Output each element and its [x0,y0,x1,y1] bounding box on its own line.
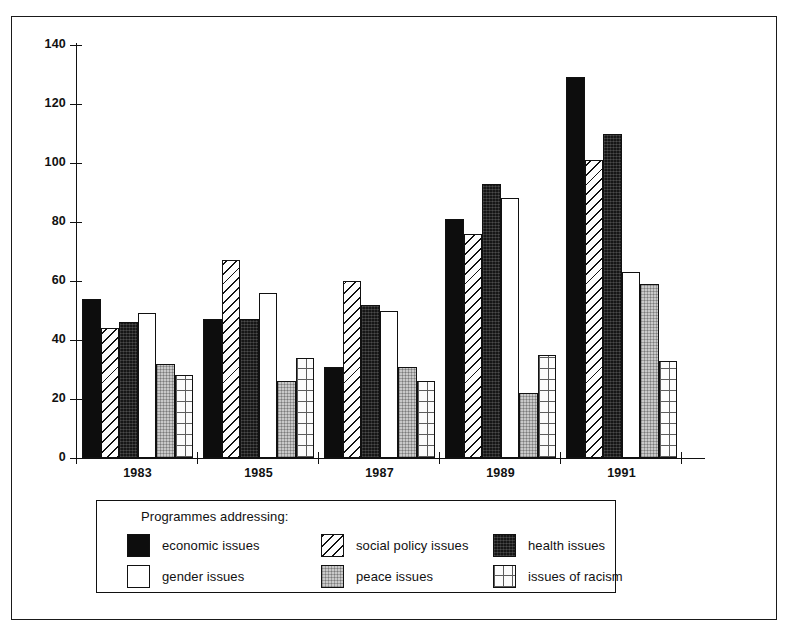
bar [240,319,259,458]
bar [640,284,659,458]
y-axis-tick [70,104,82,105]
x-axis-tick [681,452,682,464]
y-axis-tick [70,281,82,282]
bar [519,393,538,458]
legend-swatch-icon [493,565,516,588]
x-axis-tick [439,452,440,464]
y-axis-tick [70,222,82,223]
bar [259,293,278,458]
x-axis-group-label: 1991 [582,466,662,480]
bar [119,322,138,458]
legend-label: peace issues [356,569,433,584]
legend-item[interactable]: health issues [493,534,605,557]
x-axis-tick [318,452,319,464]
legend-label: economic issues [162,538,260,553]
x-axis-group-label: 1987 [340,466,420,480]
x-axis-tick [76,452,77,464]
legend-swatch-icon [493,534,516,557]
legend-label: gender issues [162,569,244,584]
bar [603,134,622,459]
bar [566,77,585,458]
bar [482,184,501,458]
y-axis-tick-label: 140 [24,37,66,51]
bar [175,375,194,458]
bar [324,367,343,458]
legend-item[interactable]: social policy issues [321,534,469,557]
bar [138,313,157,458]
legend-label: health issues [528,538,605,553]
legend-label: issues of racism [528,569,623,584]
y-axis-tick-label: 40 [24,332,66,346]
legend-swatch-icon [127,565,150,588]
y-axis-tick [70,399,82,400]
x-axis-group-label: 1989 [461,466,541,480]
bar [222,260,241,458]
bar [501,198,520,458]
bar [659,361,678,458]
bar [464,234,483,458]
bar [622,272,641,458]
y-axis-tick [70,45,82,46]
bar [445,219,464,458]
bar-chart: 020406080100120140 19831985198719891991 … [0,0,800,636]
legend-swatch-icon [321,565,344,588]
y-axis-tick-label: 20 [24,391,66,405]
legend-swatch-icon [321,534,344,557]
bar [203,319,222,458]
y-axis-tick-label: 60 [24,273,66,287]
y-axis-tick-label: 80 [24,214,66,228]
x-axis-tick [197,452,198,464]
bar [417,381,436,458]
chart-legend: Programmes addressing: economic issuesso… [96,500,616,593]
bar [538,355,557,458]
bar [82,299,101,458]
legend-label: social policy issues [356,538,469,553]
legend-item[interactable]: issues of racism [493,565,623,588]
legend-swatch-icon [127,534,150,557]
bar [101,328,120,458]
x-axis-group-label: 1983 [98,466,178,480]
x-axis-line [76,458,705,459]
bar [343,281,362,458]
legend-title: Programmes addressing: [141,509,288,524]
bar [398,367,417,458]
legend-item[interactable]: peace issues [321,565,433,588]
legend-item[interactable]: gender issues [127,565,244,588]
x-axis-tick [560,452,561,464]
y-axis-line [76,43,77,460]
y-axis-tick [70,340,82,341]
y-axis-tick-label: 120 [24,96,66,110]
bar [585,160,604,458]
bar [380,311,399,459]
y-axis-tick-label: 100 [24,155,66,169]
y-axis-tick [70,163,82,164]
bar [277,381,296,458]
bar [156,364,175,458]
bar [361,305,380,458]
bar [296,358,315,458]
legend-item[interactable]: economic issues [127,534,260,557]
y-axis-tick-label: 0 [24,450,66,464]
x-axis-group-label: 1985 [219,466,299,480]
